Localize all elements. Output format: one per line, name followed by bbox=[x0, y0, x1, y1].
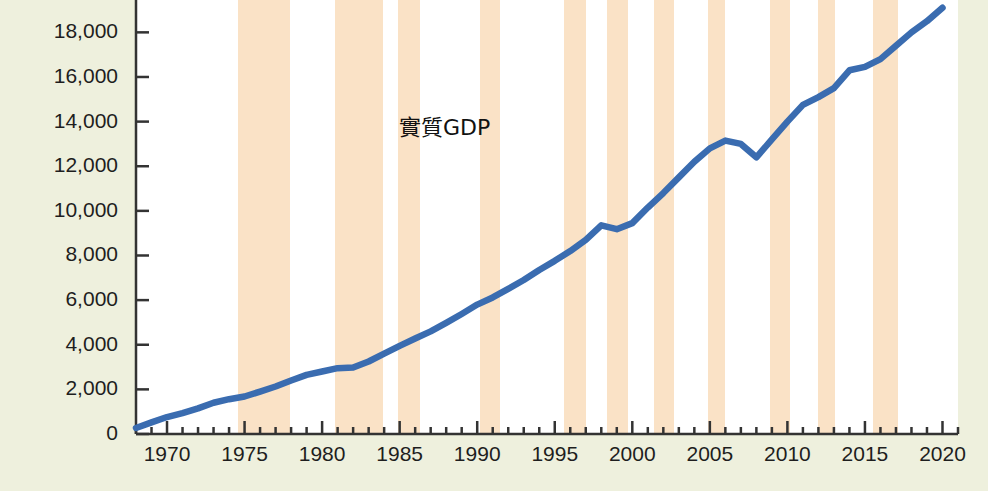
recession-band-10 bbox=[818, 0, 835, 434]
y-tick-label: 16,000 bbox=[54, 64, 118, 88]
x-tick-label: 1980 bbox=[282, 442, 362, 466]
x-tick-label: 2020 bbox=[902, 442, 982, 466]
x-tick-label: 1995 bbox=[515, 442, 595, 466]
gdp-chart-figure: 02,0004,0006,0008,00010,00012,00014,0001… bbox=[0, 0, 988, 491]
y-tick-label: 14,000 bbox=[54, 109, 118, 133]
recession-band-6 bbox=[607, 0, 627, 434]
x-tick-label: 2005 bbox=[670, 442, 750, 466]
y-tick-label: 6,000 bbox=[65, 287, 118, 311]
y-tick-label: 8,000 bbox=[65, 242, 118, 266]
recession-band-1 bbox=[238, 0, 289, 434]
y-tick-label: 18,000 bbox=[54, 19, 118, 43]
recession-band-9 bbox=[770, 0, 790, 434]
x-tick-label: 1990 bbox=[437, 442, 517, 466]
y-tick-label: 0 bbox=[106, 421, 118, 445]
y-tick-label: 2,000 bbox=[65, 376, 118, 400]
y-tick-label: 12,000 bbox=[54, 153, 118, 177]
recession-band-5 bbox=[564, 0, 586, 434]
y-tick-label: 4,000 bbox=[65, 332, 118, 356]
x-tick-label: 1970 bbox=[127, 442, 207, 466]
recession-band-8 bbox=[708, 0, 725, 434]
x-tick-label: 2000 bbox=[592, 442, 672, 466]
x-tick-label: 2010 bbox=[747, 442, 827, 466]
recession-band-2 bbox=[335, 0, 383, 434]
x-tick-label: 1985 bbox=[360, 442, 440, 466]
recession-band-3 bbox=[398, 0, 420, 434]
series-annotation-label: 實質GDP bbox=[399, 109, 490, 141]
recession-band-7 bbox=[654, 0, 674, 434]
y-tick-label: 10,000 bbox=[54, 198, 118, 222]
x-tick-label: 2015 bbox=[825, 442, 905, 466]
recession-band-11 bbox=[873, 0, 898, 434]
recession-band-4 bbox=[480, 0, 500, 434]
x-tick-label: 1975 bbox=[205, 442, 285, 466]
